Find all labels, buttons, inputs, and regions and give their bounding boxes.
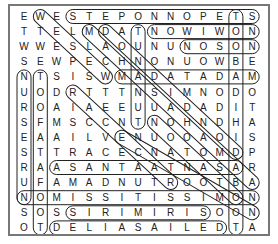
- letter-cell[interactable]: S: [16, 205, 32, 220]
- letter-cell[interactable]: P: [195, 9, 211, 24]
- letter-cell[interactable]: S: [65, 115, 81, 130]
- letter-cell[interactable]: A: [130, 160, 146, 175]
- letter-cell[interactable]: C: [98, 145, 114, 160]
- letter-cell[interactable]: N: [179, 39, 195, 54]
- letter-cell[interactable]: N: [146, 24, 162, 39]
- letter-cell[interactable]: A: [195, 100, 211, 115]
- letter-cell[interactable]: T: [16, 24, 32, 39]
- word-search-grid[interactable]: EWESTEPONNOPETSTTELMDATNOWIWONWWESLAOUNU…: [14, 8, 264, 234]
- letter-cell[interactable]: T: [163, 160, 179, 175]
- letter-cell[interactable]: M: [65, 175, 81, 190]
- letter-cell[interactable]: A: [163, 145, 179, 160]
- letter-cell[interactable]: O: [228, 39, 244, 54]
- letter-cell[interactable]: N: [163, 9, 179, 24]
- letter-cell[interactable]: N: [130, 54, 146, 69]
- letter-cell[interactable]: N: [195, 115, 211, 130]
- letter-cell[interactable]: O: [195, 145, 211, 160]
- letter-cell[interactable]: E: [65, 220, 81, 235]
- letter-cell[interactable]: U: [130, 100, 146, 115]
- letter-cell[interactable]: S: [130, 220, 146, 235]
- letter-cell[interactable]: D: [212, 220, 228, 235]
- letter-cell[interactable]: W: [32, 9, 48, 24]
- letter-cell[interactable]: T: [49, 145, 65, 160]
- letter-cell[interactable]: T: [32, 220, 48, 235]
- letter-cell[interactable]: S: [49, 205, 65, 220]
- letter-cell[interactable]: R: [16, 100, 32, 115]
- letter-cell[interactable]: O: [244, 85, 260, 100]
- letter-cell[interactable]: P: [114, 9, 130, 24]
- letter-cell[interactable]: A: [195, 160, 211, 175]
- letter-cell[interactable]: I: [228, 100, 244, 115]
- letter-cell[interactable]: D: [228, 145, 244, 160]
- letter-cell[interactable]: S: [16, 145, 32, 160]
- letter-cell[interactable]: O: [163, 115, 179, 130]
- letter-cell[interactable]: O: [195, 39, 211, 54]
- letter-cell[interactable]: O: [32, 85, 48, 100]
- letter-cell[interactable]: I: [98, 220, 114, 235]
- letter-cell[interactable]: N: [114, 115, 130, 130]
- letter-cell[interactable]: N: [244, 190, 260, 205]
- letter-cell[interactable]: U: [16, 175, 32, 190]
- letter-cell[interactable]: C: [98, 54, 114, 69]
- letter-cell[interactable]: M: [212, 145, 228, 160]
- letter-cell[interactable]: A: [49, 175, 65, 190]
- letter-cell[interactable]: T: [228, 9, 244, 24]
- letter-cell[interactable]: D: [98, 24, 114, 39]
- letter-cell[interactable]: E: [16, 9, 32, 24]
- letter-cell[interactable]: R: [163, 205, 179, 220]
- letter-cell[interactable]: A: [228, 160, 244, 175]
- letter-cell[interactable]: T: [32, 145, 48, 160]
- letter-cell[interactable]: E: [81, 54, 97, 69]
- letter-cell[interactable]: S: [212, 160, 228, 175]
- letter-cell[interactable]: A: [114, 24, 130, 39]
- letter-cell[interactable]: A: [228, 69, 244, 84]
- letter-cell[interactable]: S: [212, 39, 228, 54]
- letter-cell[interactable]: D: [49, 220, 65, 235]
- letter-cell[interactable]: N: [244, 39, 260, 54]
- letter-cell[interactable]: I: [146, 190, 162, 205]
- letter-cell[interactable]: N: [146, 145, 162, 160]
- letter-cell[interactable]: T: [179, 69, 195, 84]
- letter-cell[interactable]: T: [114, 160, 130, 175]
- letter-cell[interactable]: D: [228, 85, 244, 100]
- letter-cell[interactable]: A: [81, 175, 97, 190]
- letter-cell[interactable]: O: [16, 220, 32, 235]
- letter-cell[interactable]: R: [244, 160, 260, 175]
- letter-cell[interactable]: O: [195, 175, 211, 190]
- letter-cell[interactable]: O: [212, 205, 228, 220]
- letter-cell[interactable]: R: [98, 205, 114, 220]
- letter-cell[interactable]: N: [146, 115, 162, 130]
- letter-cell[interactable]: O: [130, 9, 146, 24]
- letter-cell[interactable]: N: [146, 39, 162, 54]
- letter-cell[interactable]: O: [163, 24, 179, 39]
- letter-cell[interactable]: I: [65, 130, 81, 145]
- letter-cell[interactable]: A: [244, 175, 260, 190]
- letter-cell[interactable]: A: [244, 115, 260, 130]
- letter-cell[interactable]: I: [65, 69, 81, 84]
- letter-cell[interactable]: D: [49, 85, 65, 100]
- letter-cell[interactable]: E: [114, 130, 130, 145]
- letter-cell[interactable]: N: [16, 69, 32, 84]
- letter-cell[interactable]: M: [81, 24, 97, 39]
- letter-cell[interactable]: N: [179, 160, 195, 175]
- letter-cell[interactable]: D: [179, 100, 195, 115]
- letter-cell[interactable]: D: [98, 175, 114, 190]
- letter-cell[interactable]: U: [146, 130, 162, 145]
- letter-cell[interactable]: R: [163, 175, 179, 190]
- letter-cell[interactable]: P: [244, 145, 260, 160]
- letter-cell[interactable]: B: [228, 54, 244, 69]
- letter-cell[interactable]: E: [49, 24, 65, 39]
- letter-cell[interactable]: N: [16, 190, 32, 205]
- letter-cell[interactable]: I: [146, 205, 162, 220]
- letter-cell[interactable]: N: [163, 54, 179, 69]
- letter-cell[interactable]: R: [65, 85, 81, 100]
- letter-cell[interactable]: E: [98, 9, 114, 24]
- letter-cell[interactable]: O: [114, 39, 130, 54]
- letter-cell[interactable]: N: [146, 9, 162, 24]
- letter-cell[interactable]: T: [244, 100, 260, 115]
- letter-cell[interactable]: B: [228, 175, 244, 190]
- letter-cell[interactable]: O: [163, 130, 179, 145]
- letter-cell[interactable]: T: [130, 24, 146, 39]
- letter-cell[interactable]: A: [49, 130, 65, 145]
- letter-cell[interactable]: O: [179, 9, 195, 24]
